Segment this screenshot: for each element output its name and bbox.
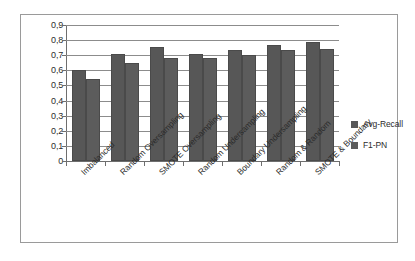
bar-f1-pn[interactable] [164,58,178,161]
bar-f1-pn[interactable] [203,58,217,161]
x-axis-tick-mark [105,162,106,166]
x-axis-tick-mark [183,162,184,166]
x-axis-tick-mark [300,162,301,166]
legend-label: F1-PN [363,140,387,150]
bar-f1-pn[interactable] [281,50,295,161]
chart-legend: Avg-RecallF1-PN [351,119,403,161]
x-axis-tick-mark [66,162,67,166]
y-axis-tick-mark [62,161,66,162]
x-axis-tick-mark [339,162,340,166]
chart-frame: 0,90,80,70,60,50,40,30,20,10 ImbalancedR… [20,14,398,243]
y-axis-tick-mark [62,40,66,41]
x-axis-tick-mark [144,162,145,166]
y-axis-tick-labels: 0,90,80,70,60,50,40,30,20,10 [21,15,63,242]
y-axis-tick-mark [62,146,66,147]
y-axis-tick-mark [62,116,66,117]
y-axis-tick-mark [62,131,66,132]
bar-f1-pn[interactable] [86,79,100,161]
y-axis-tick-mark [62,85,66,86]
legend-item[interactable]: Avg-Recall [351,119,403,129]
legend-swatch-icon [351,121,358,128]
bar-f1-pn[interactable] [125,63,139,161]
bar-f1-pn[interactable] [320,49,334,161]
x-axis-tick-mark [222,162,223,166]
legend-swatch-icon [351,142,358,149]
y-axis-tick-mark [62,55,66,56]
y-axis-tick-mark [62,70,66,71]
bar-avg-recall[interactable] [72,70,86,161]
x-axis-tick-mark [261,162,262,166]
bar-group [66,25,105,161]
legend-item[interactable]: F1-PN [351,140,403,150]
bar-f1-pn[interactable] [242,55,256,161]
y-axis-tick-mark [62,101,66,102]
legend-label: Avg-Recall [363,119,403,129]
y-axis-tick-mark [62,25,66,26]
